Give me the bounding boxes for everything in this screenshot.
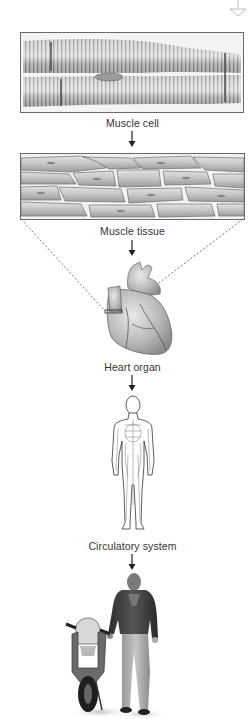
arrow-down-icon xyxy=(128,554,136,570)
faded-arrow-icon xyxy=(226,0,250,18)
heart-organ-illustration xyxy=(96,258,176,358)
organism-illustration xyxy=(60,572,170,719)
muscle-tissue-illustration xyxy=(20,153,245,220)
muscle-tissue-label: Muscle tissue xyxy=(0,225,251,237)
arrow-down-icon xyxy=(128,375,136,391)
muscle-cell-illustration xyxy=(20,32,244,113)
heart-organ-label: Heart organ xyxy=(0,361,251,373)
circulatory-system-illustration xyxy=(108,395,158,533)
muscle-cell-label: Muscle cell xyxy=(0,117,251,129)
circulatory-system-label: Circulatory system xyxy=(0,540,251,552)
arrow-down-icon xyxy=(128,131,136,147)
arrow-down-icon xyxy=(128,240,136,256)
